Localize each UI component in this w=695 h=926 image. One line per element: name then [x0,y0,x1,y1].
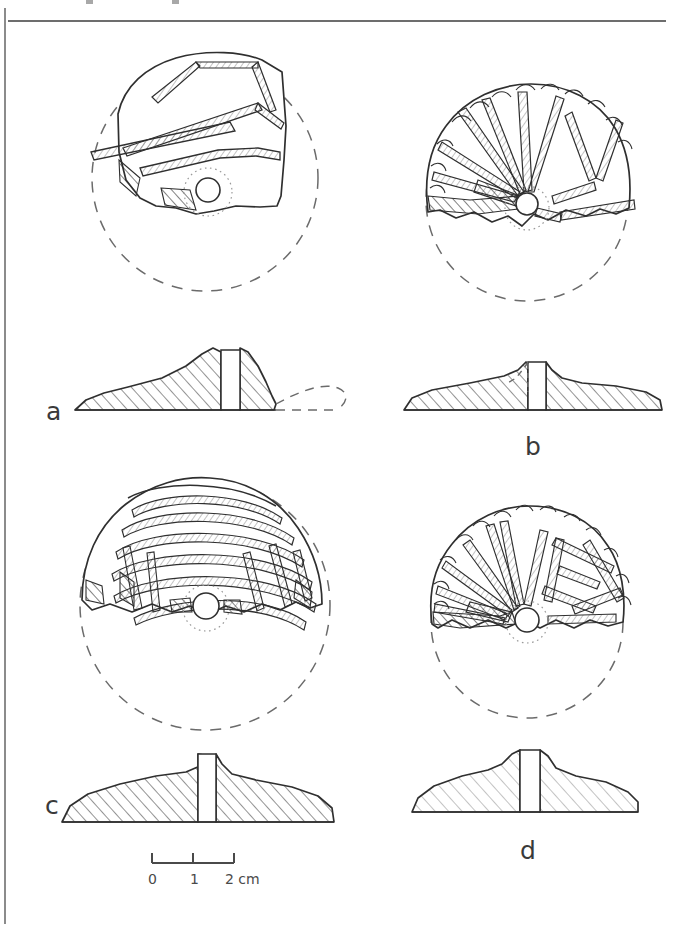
object-label-b: b [525,434,541,459]
scale-label-two: 2 cm [225,872,260,886]
figure-plate: a b c d 0 1 2 cm [0,0,695,926]
object-c-plan [80,478,330,730]
scale-label-one: 1 [190,872,199,886]
object-c-section-perforation [198,754,216,822]
object-a-perforation [196,178,220,202]
object-label-c: c [45,793,59,818]
object-label-d: d [520,838,536,863]
object-d-section-perforation [520,750,540,812]
illustration-canvas [0,0,695,926]
object-a-section [75,348,346,410]
object-c-perforation [193,593,219,619]
scale-bar [152,853,234,863]
object-b-section-perforation [528,362,546,410]
object-label-a: a [46,399,62,424]
object-b-perforation [516,193,538,215]
object-b-plan [426,84,635,301]
object-d-plan [431,505,631,718]
object-d-section [412,750,638,812]
scale-label-zero: 0 [148,872,157,886]
object-b-section [404,362,662,410]
object-a-plan [91,52,318,291]
object-d-perforation [515,608,539,632]
object-c-section [62,754,334,822]
object-a-section-perforation [221,350,240,410]
